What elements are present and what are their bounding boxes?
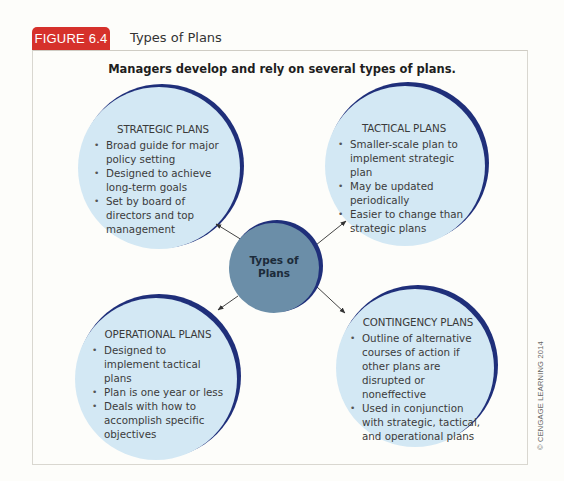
contingency-bullet: Used in conjunction with strategic, tact…	[350, 401, 486, 443]
center-label-line1: Types of	[228, 254, 320, 267]
tactical-heading: TACTICAL PLANS	[338, 121, 470, 135]
strategic-bullet: Broad guide for major policy setting	[94, 138, 232, 166]
operational-plans-text: OPERATIONAL PLANS Designed to implement …	[92, 327, 224, 441]
operational-bullet: Plan is one year or less	[92, 385, 224, 399]
tactical-bullet: Easier to change than strategic plans	[338, 207, 470, 235]
center-label: Types of Plans	[228, 254, 320, 280]
operational-bullet: Deals with how to accomplish specific ob…	[92, 399, 224, 441]
center-label-line2: Plans	[228, 267, 320, 280]
copyright-notice: © CENGAGE LEARNING 2014	[536, 341, 545, 450]
contingency-plans-text: CONTINGENCY PLANS Outline of alternative…	[350, 315, 486, 443]
tactical-plans-text: TACTICAL PLANS Smaller-scale plan to imp…	[338, 121, 470, 235]
tactical-bullet: May be updated periodically	[338, 179, 470, 207]
strategic-plans-text: STRATEGIC PLANS Broad guide for major po…	[94, 122, 232, 236]
contingency-heading: CONTINGENCY PLANS	[350, 315, 486, 329]
arrow-to-contingency	[316, 286, 345, 313]
operational-heading: OPERATIONAL PLANS	[92, 327, 224, 341]
strategic-heading: STRATEGIC PLANS	[94, 122, 232, 136]
contingency-bullet: Outline of alternative courses of action…	[350, 331, 486, 401]
strategic-bullet: Set by board of directors and top manage…	[94, 194, 232, 236]
arrow-to-operational	[218, 296, 238, 310]
strategic-bullet: Designed to achieve long-term goals	[94, 166, 232, 194]
tactical-bullet: Smaller-scale plan to implement strategi…	[338, 137, 470, 179]
operational-bullet: Designed to implement tactical plans	[92, 343, 224, 385]
